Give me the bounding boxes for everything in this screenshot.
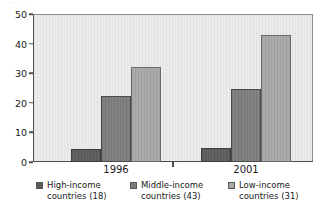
legend-item-middle[interactable]: Middle-incomecountries (43): [130, 180, 203, 201]
plot-wrapper: 01020304050: [33, 14, 313, 162]
legend-item-low[interactable]: Low-incomecountries (31): [228, 180, 299, 201]
y-axis-tick-label: 10: [15, 127, 27, 138]
bar-high-1996: [71, 149, 101, 162]
bar-chart: ·· ·· 01020304050 19962001 High-incomeco…: [0, 0, 320, 210]
legend-label-line2: countries (31): [239, 191, 299, 202]
chart-legend: High-incomecountries (18)Middle-incomeco…: [0, 180, 320, 210]
y-axis-tick-label: 30: [15, 68, 27, 79]
legend-label-line2: countries (18): [47, 191, 107, 202]
legend-label: Low-incomecountries (31): [239, 180, 299, 201]
y-axis-tick-label: 20: [15, 97, 27, 108]
bar-low-2001: [261, 35, 291, 162]
legend-label: Middle-incomecountries (43): [141, 180, 203, 201]
bar-middle-1996: [101, 96, 131, 162]
legend-swatch-icon: [228, 182, 235, 189]
legend-label-line1: Low-income: [239, 180, 290, 190]
legend-label: High-incomecountries (18): [47, 180, 107, 201]
legend-label-line1: Middle-income: [141, 180, 203, 190]
bars-layer: [33, 14, 313, 162]
x-axis-group-label-1996: 1996: [103, 164, 128, 175]
y-axis-tick-label: 40: [15, 38, 27, 49]
bar-middle-2001: [231, 89, 261, 162]
y-axis-tick-label: 50: [15, 9, 27, 20]
y-axis-tick-label: 0: [21, 157, 27, 168]
cropped-header-artifact: ·· ··: [10, 0, 70, 5]
legend-swatch-icon: [36, 182, 43, 189]
legend-label-line2: countries (43): [141, 191, 203, 202]
bar-high-2001: [201, 148, 231, 162]
legend-label-line1: High-income: [47, 180, 101, 190]
x-axis-tick-mark: [172, 162, 174, 167]
legend-item-high[interactable]: High-incomecountries (18): [36, 180, 107, 201]
legend-swatch-icon: [130, 182, 137, 189]
x-axis-group-label-2001: 2001: [233, 164, 258, 175]
bar-low-1996: [131, 67, 161, 162]
